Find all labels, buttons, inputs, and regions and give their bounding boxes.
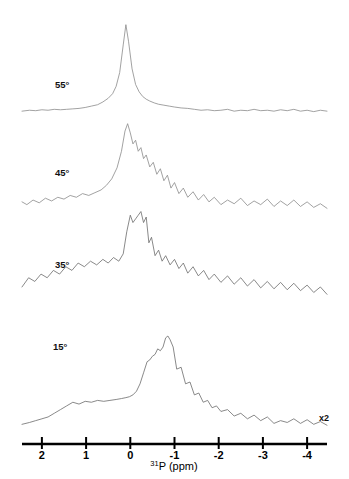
axis-title-isotope: 31	[150, 459, 158, 468]
angle-label-35deg: 35°	[55, 259, 70, 270]
nmr-spectrum-figure: 55°45°35°15° 210-1-2-3-4 31P (ppm) x2	[0, 0, 349, 479]
angle-labels-group: 55°45°35°15°	[53, 79, 70, 352]
spectrum-trace-15deg	[22, 336, 327, 425]
axis-tick-label--4: -4	[302, 449, 313, 461]
axis-tick-label-1: 1	[83, 449, 89, 461]
spectrum-trace-35deg	[22, 212, 327, 295]
spectrum-trace-55deg	[22, 25, 327, 112]
axis-tick-label--2: -2	[214, 449, 224, 461]
axis-tick-label-0: 0	[127, 449, 133, 461]
axis-title-element: P (ppm)	[159, 460, 198, 472]
spectrum-trace-45deg	[22, 124, 327, 209]
axis-title: 31P (ppm)	[150, 459, 197, 473]
angle-label-15deg: 15°	[53, 341, 68, 352]
ppm-axis-group: 210-1-2-3-4	[22, 437, 327, 461]
axis-tick-label-2: 2	[39, 449, 45, 461]
angle-label-45deg: 45°	[55, 167, 70, 178]
scale-note-x2: x2	[319, 413, 329, 423]
angle-label-55deg: 55°	[55, 79, 70, 90]
axis-tick-label--3: -3	[258, 449, 268, 461]
